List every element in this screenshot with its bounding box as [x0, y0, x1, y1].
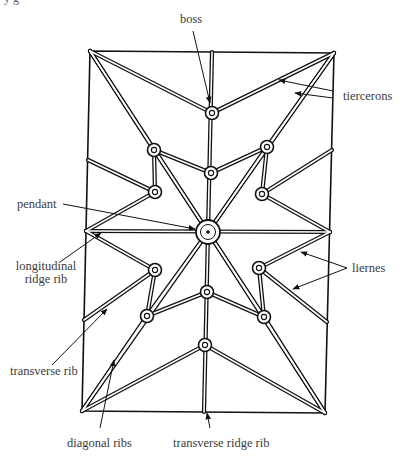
transverse-rib-leader: [52, 309, 107, 365]
label-boss: boss: [180, 13, 202, 26]
vault-plan-diagram: [0, 0, 404, 459]
boss-mid-upper-center: [205, 167, 218, 180]
liernes-leader-2: [293, 268, 347, 289]
longitudinal-ridge-rib-leader: [60, 233, 101, 262]
label-transverse-ridge-rib: transverse ridge rib: [173, 437, 270, 450]
boss-bottom: [199, 339, 212, 352]
label-liernes: liernes: [352, 262, 385, 275]
label-pendant: pendant: [17, 198, 57, 211]
transverse-ridge-rib-leader: [207, 413, 210, 428]
boss-right: [256, 188, 269, 201]
label-longitudinal-ridge-rib-line2: ridge rib: [14, 273, 78, 286]
boss-left: [149, 186, 162, 199]
pendant-boss: [196, 220, 220, 244]
boss-upper-left: [148, 144, 161, 157]
label-tiercerons: tiercerons: [343, 90, 392, 103]
boss-far-lower-left: [141, 310, 154, 323]
label-transverse-rib: transverse rib: [10, 365, 78, 378]
label-diagonal-ribs: diagonal ribs: [67, 437, 132, 450]
boss-lower-right: [253, 262, 266, 275]
boss-upper-right: [261, 141, 274, 154]
boss-top: [206, 107, 219, 120]
label-longitudinal-ridge-rib: longitudinal ridge rib: [14, 260, 78, 286]
boss-mid-lower-center: [201, 286, 214, 299]
liernes-leader-1: [301, 252, 347, 268]
boss-far-lower-right: [258, 311, 271, 324]
boss-leader: [193, 31, 210, 103]
boss-lower-left: [149, 264, 162, 277]
